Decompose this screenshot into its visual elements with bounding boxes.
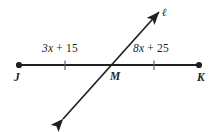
segment-label-mk: 8x + 25 (133, 43, 169, 55)
endpoint-dot-k (196, 62, 202, 68)
endpoint-dot-j (16, 62, 22, 68)
segment-mk-tail: + 25 (144, 42, 169, 54)
point-label-m: M (110, 71, 120, 83)
point-label-k: K (197, 72, 205, 84)
line-label-l: ℓ (162, 7, 167, 18)
segment-label-jm: 3x + 15 (42, 43, 78, 55)
point-label-j: J (14, 72, 20, 84)
geometry-diagram-svg (0, 0, 218, 132)
segment-jm-tail: + 15 (53, 42, 78, 54)
geometry-figure: 3x + 15 8x + 25 J M K ℓ (0, 0, 218, 132)
